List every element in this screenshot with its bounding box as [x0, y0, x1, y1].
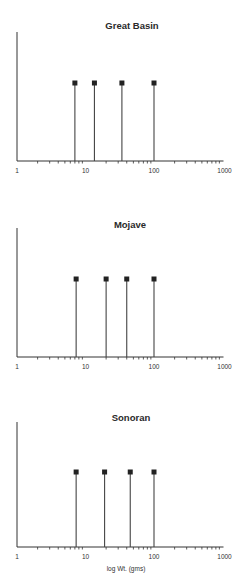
x-tick-label: 100 — [149, 363, 160, 370]
x-tick-label: 1000 — [217, 553, 232, 560]
x-tick-label: 10 — [82, 553, 90, 560]
x-tick-label: 10 — [82, 167, 90, 174]
x-tick-label: 1 — [15, 553, 19, 560]
x-tick-label: 1 — [15, 167, 19, 174]
x-axis-label: log Wt. (gms) — [107, 565, 146, 573]
x-tick-label: 10 — [82, 363, 90, 370]
panel-great-basin: Great Basin 1101001000 — [15, 20, 232, 174]
x-tick-label: 1 — [15, 363, 19, 370]
stem-marker — [74, 470, 79, 475]
stem-marker — [72, 81, 77, 86]
x-tick-label: 100 — [149, 553, 160, 560]
stem-marker — [152, 81, 157, 86]
panel-title: Sonoran — [112, 412, 151, 423]
stem-marker — [128, 470, 133, 475]
stem-marker — [119, 81, 124, 86]
stem-marker — [152, 470, 157, 475]
panel-title: Mojave — [114, 219, 146, 230]
x-tick-label: 1000 — [217, 363, 232, 370]
stem-marker — [152, 277, 157, 282]
stem-marker — [104, 277, 109, 282]
stem-marker — [102, 470, 107, 475]
figure: Great Basin 1101001000 Mojave 1101001000… — [0, 0, 248, 588]
x-tick-label: 1000 — [217, 167, 232, 174]
stem-marker — [92, 81, 97, 86]
panel-title: Great Basin — [105, 20, 159, 31]
stem-marker — [124, 277, 129, 282]
panel-mojave: Mojave 1101001000 — [15, 219, 232, 370]
stem-marker — [74, 277, 79, 282]
panel-sonoran: Sonoran log Wt. (gms) 1101001000 — [15, 412, 232, 573]
x-tick-label: 100 — [149, 167, 160, 174]
